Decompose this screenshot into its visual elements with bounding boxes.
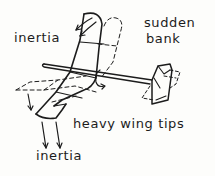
inertia-arrows-bottom-icon: [42, 122, 62, 148]
airplane-bank-diagram: inertia sudden bank heavy wing tips iner…: [0, 0, 215, 176]
label-inertia-bottom: inertia: [36, 149, 82, 162]
label-bank: bank: [146, 32, 180, 45]
label-sudden: sudden: [144, 16, 195, 29]
label-inertia-top: inertia: [14, 31, 60, 44]
inertia-arrows-top-icon: [76, 18, 96, 36]
tail-previous-position: [142, 70, 180, 100]
inertia-arrow-left-tip-icon: [28, 94, 33, 110]
tail: [152, 64, 172, 104]
wing: [36, 13, 104, 118]
label-heavy-wing-tips: heavy wing tips: [73, 117, 184, 130]
